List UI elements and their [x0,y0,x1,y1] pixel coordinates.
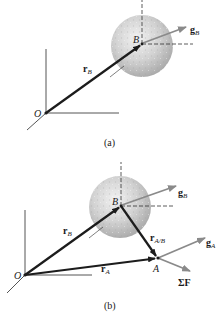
gb-label: gB [178,187,188,200]
origin-point [23,273,26,276]
relative-gravity-diagram: O B rB gB (a) [0,0,220,322]
vector-sum-f [158,258,190,271]
vector-ga [158,238,205,258]
tangent-tick [110,66,124,77]
point-b-label: B [133,34,139,45]
origin-label: O [14,270,21,281]
point-b [141,43,144,46]
origin-point [44,111,47,114]
rb-label: rB [83,63,92,76]
origin-label: O [34,108,41,119]
point-a [156,256,159,259]
caption-b: (b) [104,300,116,312]
gb-label: gB [190,24,200,37]
point-b-label: B [112,196,118,207]
sum-f-label: ΣF [178,277,191,288]
point-b [120,205,123,208]
earth-sphere-icon [89,176,151,238]
figure-b: O B A rB rA rA/B gB gA ΣF (b) [7,162,216,312]
rab-label: rA/B [150,232,166,245]
ga-label: gA [206,237,216,250]
caption-a: (a) [104,137,115,149]
vector-rb [46,46,140,114]
point-a-label: A [152,263,160,274]
figure-a: O B rB gB (a) [27,0,200,149]
rb-label: rB [63,225,72,238]
